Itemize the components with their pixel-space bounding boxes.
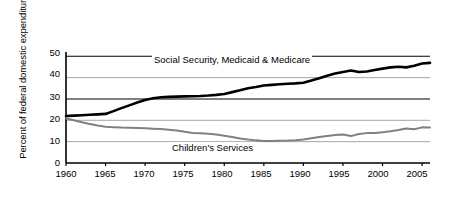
series-path-childrens-services: [66, 118, 430, 141]
series-label-social-security: Social Security, Medicaid & Medicare: [152, 54, 312, 65]
series-label-childrens-services: Children's Services: [170, 142, 255, 153]
series-lines: [66, 63, 430, 141]
plot-area: [0, 0, 451, 201]
series-path-social-security: [66, 63, 430, 116]
chart-container: Percent of federal domestic expenditures…: [0, 0, 451, 201]
